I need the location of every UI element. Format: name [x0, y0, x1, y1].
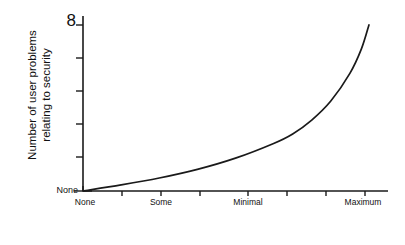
chart-figure: Number of user problems relating to secu…	[0, 0, 405, 245]
plot-area	[0, 0, 405, 245]
data-series-line	[83, 25, 369, 191]
